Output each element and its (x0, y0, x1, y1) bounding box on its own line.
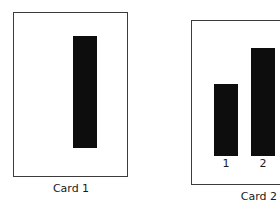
card-1-caption: Card 1 (0, 182, 142, 195)
card-2-plot-area: 1 2 (192, 21, 280, 184)
card-1-frame (13, 12, 128, 177)
card-2-tick-label-1: 1 (214, 158, 238, 170)
card-2-bar-2 (251, 48, 275, 156)
card-2-frame: 1 2 (191, 20, 280, 185)
card-2: 1 2 Card 2 (152, 0, 280, 209)
card-2-bar-1 (214, 84, 238, 156)
card-1-plot-area (14, 13, 127, 176)
two-card-bar-figure: Card 1 1 2 Card 2 (0, 0, 280, 209)
card-2-caption: Card 2 (152, 190, 277, 203)
card-1-bar-a (73, 36, 97, 148)
card-1: Card 1 (0, 0, 152, 209)
card-2-tick-label-2: 2 (251, 158, 275, 170)
